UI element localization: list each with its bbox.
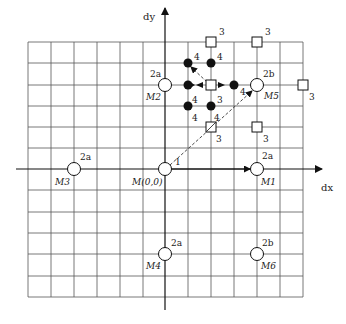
m4-cost: 2a [171, 239, 182, 248]
dot-cost-label: 4 [240, 88, 246, 97]
m2-cost: 2a [150, 70, 161, 79]
square-cost-label: 3 [217, 96, 223, 105]
square-cost-label: 3 [265, 28, 271, 37]
square-cost-label: 3 [263, 135, 269, 144]
square-cost-label: 3 [309, 93, 315, 102]
dx-axis-label: dx [321, 183, 333, 193]
square-cost-label: 3 [219, 28, 225, 37]
m2-label: M2 [146, 93, 161, 102]
dashed-path-center-to-dot [191, 67, 207, 82]
m1-cost: 2a [262, 152, 273, 161]
arrow-into-square-left [196, 82, 203, 88]
m3-label: M3 [55, 178, 70, 187]
dy-axis-label: dy [143, 12, 155, 22]
m6-cost: 2b [262, 239, 274, 248]
m1-label: M1 [261, 178, 276, 187]
dot-cost-label: 4 [214, 114, 220, 123]
m6-label: M6 [261, 262, 276, 271]
dot-cost-label: 4 [192, 114, 198, 123]
motion-search-diagram [0, 0, 346, 324]
square-cost-label: 3 [216, 135, 222, 144]
dot-cost-label: 4 [217, 53, 223, 62]
origin-label: M(0,0) [132, 178, 163, 187]
m3-cost: 2a [80, 153, 91, 162]
dot-cost-label: 4 [194, 53, 200, 62]
m5-cost: 2b [263, 70, 275, 79]
arrow-into-square-right [218, 82, 225, 88]
m5-label: M5 [264, 92, 279, 101]
m4-label: M4 [146, 262, 161, 271]
first-step-label: 1 [175, 158, 181, 167]
dot-cost-label: 4 [192, 96, 198, 105]
